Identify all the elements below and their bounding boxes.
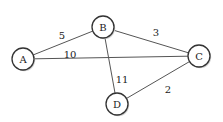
edge-weight-a-c: 10 (64, 49, 77, 60)
node-label: C (195, 51, 203, 62)
node-b: B (92, 16, 115, 39)
edge-weight-b-d: 11 (116, 74, 129, 85)
edge-a-c (23, 56, 199, 59)
node-label: B (99, 22, 106, 33)
edges-layer (23, 27, 199, 104)
node-label: A (18, 54, 27, 65)
edge-weight-b-c: 3 (153, 27, 159, 38)
node-d: D (106, 93, 129, 116)
edge-b-c (103, 27, 199, 56)
graph-svg: 5103112 ABCD (0, 0, 223, 122)
edge-labels-layer: 5103112 (59, 27, 171, 95)
node-c: C (188, 45, 211, 68)
node-label: D (113, 99, 121, 110)
edge-c-d (117, 56, 199, 104)
node-a: A (12, 48, 35, 71)
edge-weight-c-d: 2 (165, 84, 171, 95)
edge-weight-a-b: 5 (59, 30, 65, 41)
graph-diagram: 5103112 ABCD (0, 0, 223, 122)
